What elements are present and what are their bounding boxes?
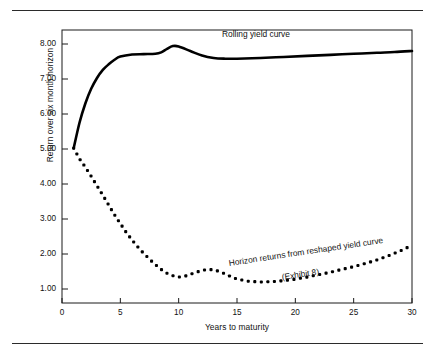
series-marker	[178, 275, 181, 278]
series-marker	[103, 197, 106, 200]
y-tick-label: 8.00	[26, 39, 56, 48]
y-tick-label: 1.00	[26, 284, 56, 293]
series-marker	[128, 235, 131, 238]
series-marker	[222, 272, 225, 275]
y-axis-ticks	[62, 44, 68, 289]
series-marker	[394, 251, 397, 254]
series-marker	[79, 158, 82, 161]
series-marker	[325, 272, 328, 275]
series-marker	[203, 268, 206, 271]
series-marker	[86, 169, 89, 172]
series-marker	[72, 147, 75, 150]
series-marker	[247, 280, 250, 283]
series-marker	[331, 270, 334, 273]
x-tick-label: 10	[167, 308, 191, 317]
series-marker	[356, 264, 359, 267]
series-marker	[209, 268, 212, 271]
series-marker	[344, 267, 347, 270]
x-tick-label: 5	[108, 308, 132, 317]
y-tick-label: 5.00	[26, 144, 56, 153]
series-marker	[113, 214, 116, 217]
chart-canvas	[0, 0, 435, 354]
series-marker	[266, 280, 269, 283]
series-marker	[190, 272, 193, 275]
series-marker	[184, 274, 187, 277]
series-marker	[121, 225, 124, 228]
series-marker	[171, 274, 174, 277]
series-marker	[260, 280, 263, 283]
series-marker	[82, 164, 85, 167]
annotation-rolling-yield-curve: Rolling yield curve	[222, 29, 290, 39]
series-marker	[369, 260, 372, 263]
x-tick-label: 20	[283, 308, 307, 317]
x-tick-label: 25	[342, 308, 366, 317]
series-marker	[273, 280, 276, 283]
series-marker	[388, 254, 391, 257]
series-marker	[253, 280, 256, 283]
series-marker	[216, 269, 219, 272]
series-marker	[75, 152, 78, 155]
series-marker	[93, 180, 96, 183]
x-tick-label: 15	[225, 308, 249, 317]
series-marker	[363, 262, 366, 265]
series-line-rolling-yield-curve	[74, 46, 412, 148]
y-tick-label: 3.00	[26, 214, 56, 223]
x-axis-ticks	[62, 298, 412, 303]
series-marker	[234, 277, 237, 280]
series-marker	[124, 230, 127, 233]
series-marker	[337, 269, 340, 272]
series-marker	[165, 272, 168, 275]
series-marker	[381, 256, 384, 259]
series-marker	[145, 255, 148, 258]
series-marker	[375, 258, 378, 261]
series-marker	[136, 245, 139, 248]
series-marker	[117, 219, 120, 222]
y-tick-label: 2.00	[26, 249, 56, 258]
x-tick-label: 30	[400, 308, 424, 317]
series-marker	[107, 202, 110, 205]
series-marker	[400, 249, 403, 252]
series-marker	[228, 274, 231, 277]
y-tick-label: 6.00	[26, 109, 56, 118]
series-marker	[350, 266, 353, 269]
y-tick-label: 4.00	[26, 179, 56, 188]
series-marker	[89, 175, 92, 178]
x-tick-label: 0	[50, 308, 74, 317]
series-marker	[141, 250, 144, 253]
series-marker	[406, 246, 409, 249]
series-marker	[197, 270, 200, 273]
series-marker	[100, 191, 103, 194]
y-tick-label: 7.00	[26, 74, 56, 83]
series-marker	[96, 186, 99, 189]
series-marker	[240, 279, 243, 282]
series-marker	[155, 264, 158, 267]
x-axis-title: Years to maturity	[62, 322, 412, 332]
series-marker	[150, 260, 153, 263]
figure-container: Return over six month horizon Years to m…	[0, 0, 435, 354]
series-marker	[160, 268, 163, 271]
series-marker	[110, 208, 113, 211]
series-marker	[132, 240, 135, 243]
plot-area: Return over six month horizon Years to m…	[0, 0, 435, 354]
